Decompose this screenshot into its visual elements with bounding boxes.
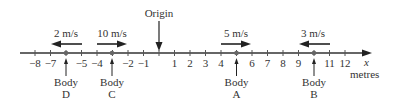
svg-text:B: B: [310, 88, 317, 100]
up-arrow-icon: [312, 58, 316, 64]
body-a: 5 m/s Body A: [221, 27, 251, 100]
up-arrow-icon: [64, 58, 68, 64]
svg-text:7: 7: [265, 57, 271, 69]
up-arrow-icon: [110, 58, 114, 64]
left-arrow-icon: [299, 41, 309, 48]
tick-marks: [35, 50, 345, 56]
svg-text:1: 1: [172, 57, 178, 69]
tick-labels: −8 −7 −5 −4 −2 −1 1 2 3 4 6 7 8 9 11 12: [29, 57, 350, 69]
body-d-speed: 2 m/s: [54, 27, 78, 39]
left-arrow-icon: [51, 41, 61, 48]
svg-text:6: 6: [249, 57, 255, 69]
svg-text:8: 8: [280, 57, 286, 69]
right-arrow-icon: [117, 41, 127, 48]
svg-text:Body: Body: [54, 76, 78, 88]
svg-text:−8: −8: [29, 57, 41, 69]
svg-text:A: A: [233, 88, 241, 100]
origin-label: Origin: [145, 7, 174, 19]
svg-text:12: 12: [340, 57, 351, 69]
unit-label: metres: [350, 68, 379, 80]
svg-text:9: 9: [296, 57, 302, 69]
svg-text:−2: −2: [122, 57, 134, 69]
svg-text:2: 2: [187, 57, 193, 69]
svg-text:4: 4: [218, 57, 224, 69]
right-arrow-icon: [241, 41, 251, 48]
svg-text:Body: Body: [302, 76, 326, 88]
origin-arrow-icon: [156, 42, 163, 51]
body-a-dot: [234, 51, 239, 56]
axis-variable-label: x: [363, 56, 369, 68]
svg-text:3: 3: [203, 57, 209, 69]
svg-text:−4: −4: [91, 57, 103, 69]
body-d-dot: [64, 51, 69, 56]
svg-text:C: C: [108, 88, 115, 100]
svg-text:−1: −1: [138, 57, 150, 69]
svg-text:−5: −5: [76, 57, 88, 69]
body-b-speed: 3 m/s: [301, 27, 325, 39]
svg-text:D: D: [62, 88, 70, 100]
body-a-speed: 5 m/s: [224, 27, 248, 39]
body-b-dot: [312, 51, 317, 56]
svg-text:Body: Body: [225, 76, 249, 88]
svg-text:Body: Body: [100, 76, 124, 88]
body-c-speed: 10 m/s: [97, 27, 127, 39]
number-line-diagram: x metres −8 −7 −5 −4 −2 −1 1 2 3 4: [0, 0, 397, 105]
body-c-dot: [110, 51, 115, 56]
up-arrow-icon: [235, 58, 239, 64]
svg-text:−7: −7: [45, 57, 57, 69]
svg-text:11: 11: [324, 57, 335, 69]
